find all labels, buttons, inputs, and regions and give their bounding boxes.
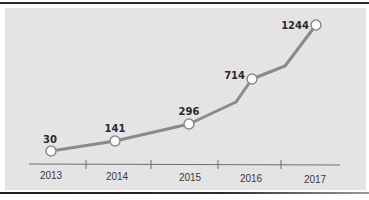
data-label-2015: 296 [179, 106, 200, 117]
line-chart: 30 141 296 714 1244 2013 2014 2015 2016 … [0, 0, 369, 200]
data-label-2016: 714 [224, 70, 245, 81]
data-label-2017: 1244 [281, 20, 309, 31]
data-point-2014 [110, 136, 120, 146]
x-tick-label-2016: 2016 [240, 173, 263, 184]
data-point-2013 [46, 146, 56, 156]
x-tick-label-2013: 2013 [40, 170, 63, 181]
x-axis [29, 164, 340, 165]
x-tick-label-2017: 2017 [304, 174, 327, 185]
data-point-2016 [247, 74, 257, 84]
series-line [51, 25, 316, 151]
data-label-2013: 30 [43, 134, 57, 145]
bottom-rule [0, 192, 369, 194]
x-tick-label-2014: 2014 [106, 171, 129, 182]
x-tick-label-2015: 2015 [179, 172, 202, 183]
data-label-2014: 141 [105, 123, 126, 134]
data-point-2015 [184, 119, 194, 129]
data-point-2017 [311, 20, 321, 30]
